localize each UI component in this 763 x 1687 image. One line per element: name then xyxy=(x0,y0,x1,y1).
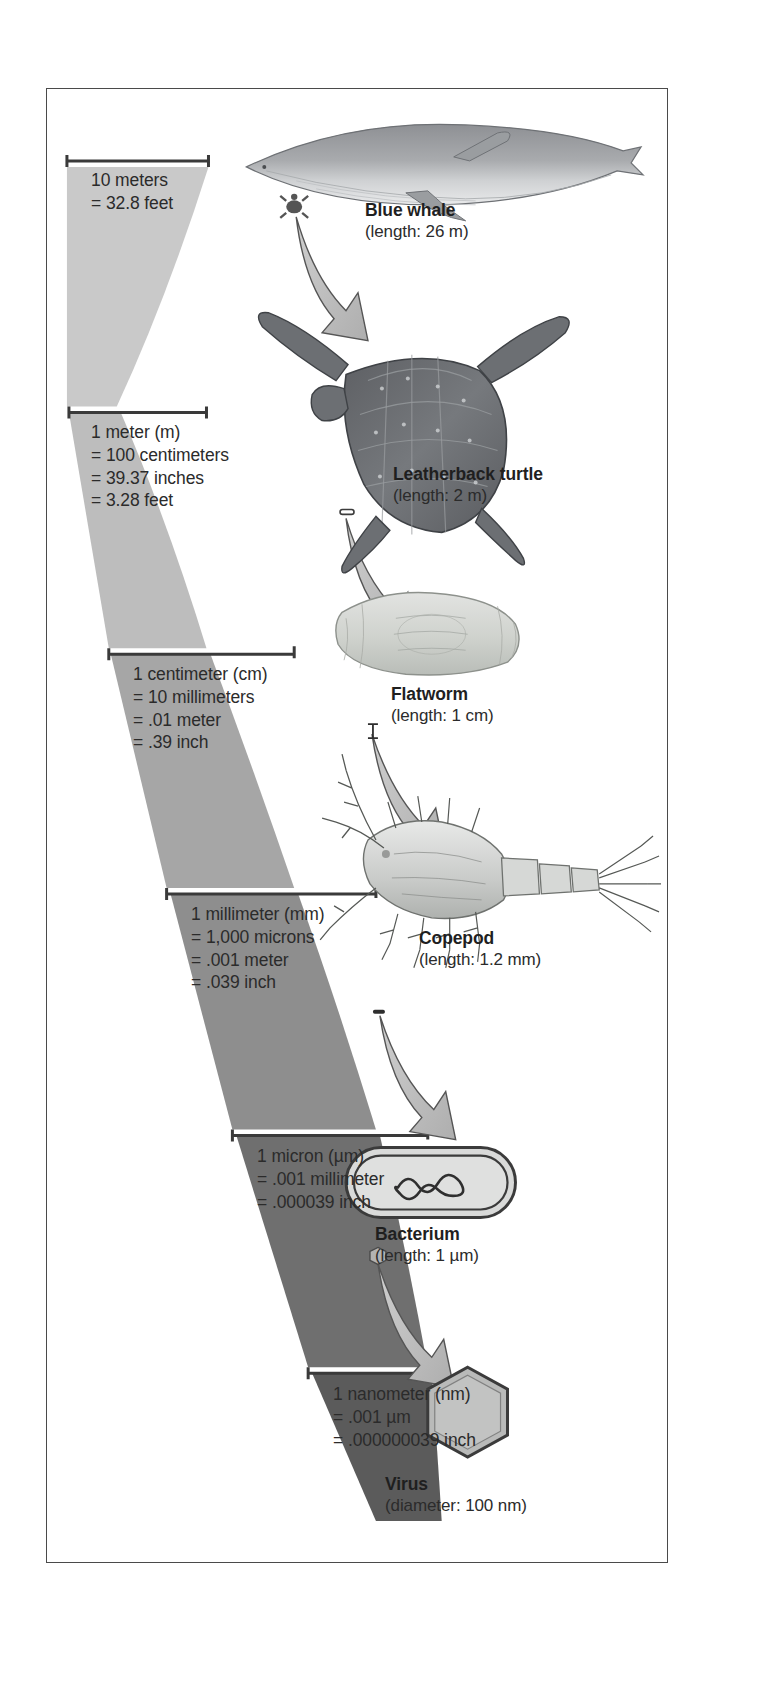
scale-line: = .000000039 inch xyxy=(333,1429,476,1452)
scale-label-one-micron: 1 micron (µm) = .001 millimeter = .00003… xyxy=(257,1145,384,1213)
scale-line: = 10 millimeters xyxy=(133,686,267,709)
scale-line: 1 meter (m) xyxy=(91,421,229,444)
arrow-whale-to-turtle xyxy=(296,217,368,341)
scale-line: = .000039 inch xyxy=(257,1191,384,1214)
scale-line: = 100 centimeters xyxy=(91,444,229,467)
scale-line: = .39 inch xyxy=(133,731,267,754)
organism-size: (length: 1 µm) xyxy=(375,1245,479,1267)
scale-line: = .039 inch xyxy=(191,971,324,994)
scale-line: = 3.28 feet xyxy=(91,489,229,512)
figure-canvas xyxy=(47,89,667,1562)
scale-line: = .001 µm xyxy=(333,1406,476,1429)
organism-name: Flatworm xyxy=(391,683,494,705)
organism-name: Leatherback turtle xyxy=(393,463,543,485)
scale-label-ten-meters: 10 meters = 32.8 feet xyxy=(91,169,173,215)
bacterium-preview-icon xyxy=(373,1010,385,1014)
scale-line: = 32.8 feet xyxy=(91,192,173,215)
organism-label-virus: Virus (diameter: 100 nm) xyxy=(385,1473,527,1517)
scale-label-one-millimeter: 1 millimeter (mm) = 1,000 microns = .001… xyxy=(191,903,324,994)
organism-label-copepod: Copepod (length: 1.2 mm) xyxy=(419,927,541,971)
scale-line: 1 millimeter (mm) xyxy=(191,903,324,926)
scale-line: = 1,000 microns xyxy=(191,926,324,949)
organism-name: Copepod xyxy=(419,927,541,949)
organism-label-bacterium: Bacterium (length: 1 µm) xyxy=(375,1223,479,1267)
organism-size: (length: 1.2 mm) xyxy=(419,949,541,971)
organism-size: (length: 1 cm) xyxy=(391,705,494,727)
scale-line: = 39.37 inches xyxy=(91,467,229,490)
organism-name: Virus xyxy=(385,1473,527,1495)
scale-label-one-nanometer: 1 nanometer (nm) = .001 µm = .000000039 … xyxy=(333,1383,476,1451)
organism-size: (diameter: 100 nm) xyxy=(385,1495,527,1517)
copepod-preview-icon xyxy=(368,724,378,738)
scale-line: 1 centimeter (cm) xyxy=(133,663,267,686)
leatherback-turtle-illustration xyxy=(258,312,569,572)
organism-name: Blue whale xyxy=(365,199,468,221)
organism-label-leatherback-turtle: Leatherback turtle (length: 2 m) xyxy=(393,463,543,507)
flatworm-illustration xyxy=(336,592,519,675)
organism-label-blue-whale: Blue whale (length: 26 m) xyxy=(365,199,468,243)
scale-line: 10 meters xyxy=(91,169,173,192)
organism-label-flatworm: Flatworm (length: 1 cm) xyxy=(391,683,494,727)
figure-frame: 10 meters = 32.8 feet 1 meter (m) = 100 … xyxy=(46,88,668,1563)
turtle-preview-icon xyxy=(280,194,308,218)
flatworm-preview-icon xyxy=(340,509,354,514)
scale-line: 1 nanometer (nm) xyxy=(333,1383,476,1406)
scale-line: 1 micron (µm) xyxy=(257,1145,384,1168)
organism-size: (length: 26 m) xyxy=(365,221,468,243)
arrow-copepod-to-bacterium xyxy=(380,1016,456,1140)
scale-line: = .001 millimeter xyxy=(257,1168,384,1191)
scale-label-one-centimeter: 1 centimeter (cm) = 10 millimeters = .01… xyxy=(133,663,267,754)
organism-size: (length: 2 m) xyxy=(393,485,543,507)
tick-ten-meters xyxy=(67,155,209,167)
organism-name: Bacterium xyxy=(375,1223,479,1245)
scale-label-one-meter: 1 meter (m) = 100 centimeters = 39.37 in… xyxy=(91,421,229,512)
scale-line: = .001 meter xyxy=(191,949,324,972)
scale-line: = .01 meter xyxy=(133,709,267,732)
